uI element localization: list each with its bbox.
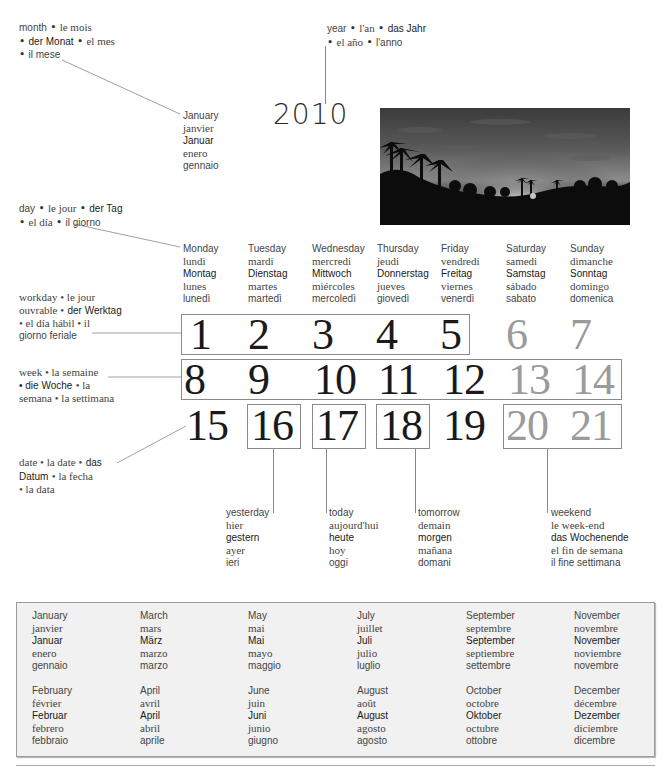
weekend-pointer-line — [547, 449, 548, 513]
date-13: 13 — [508, 358, 550, 402]
tomorrow-pointer-line — [415, 449, 416, 513]
month-november: November novembre November noviembre nov… — [574, 610, 621, 672]
month-october: October octobre Oktober octubre ottobre — [466, 685, 502, 747]
date-21: 21 — [570, 404, 612, 448]
date-20: 20 — [506, 404, 548, 448]
yesterday-label: yesterday hier gestern ayer ieri — [226, 507, 269, 569]
month-march: March mars März marzo marzo — [140, 610, 168, 672]
weekday-wednesday: Wednesday mercredi Mittwoch miércoles me… — [312, 243, 365, 305]
date-19: 19 — [443, 404, 485, 448]
month-january: January janvier Januar enero gennaio — [32, 610, 68, 672]
yesterday-pointer-line — [273, 449, 274, 513]
date-16: 16 — [251, 404, 293, 448]
page-bottom-rule — [16, 765, 655, 766]
tomorrow-label: tomorrow demain morgen mañana domani — [418, 507, 460, 569]
weekday-monday: Monday lundi Montag lunes lunedì — [183, 243, 219, 305]
date-5: 5 — [440, 313, 461, 357]
month-may: May mai Mai mayo maggio — [248, 610, 281, 672]
weekday-thursday: Thursday jeudi Donnerstag jueves giovedì — [377, 243, 429, 305]
sunset-palm-photo — [380, 108, 630, 225]
months-reference-box: January janvier Januar enero gennaio Feb… — [16, 602, 655, 757]
current-month: January janvier Januar enero gennaio — [183, 110, 219, 172]
date-14: 14 — [572, 358, 614, 402]
date-3: 3 — [312, 313, 333, 357]
month-february: February février Februar febrero febbrai… — [32, 685, 72, 747]
date-12: 12 — [443, 358, 485, 402]
date-11: 11 — [378, 358, 418, 402]
weekday-sunday: Sunday dimanche Sonntag domingo domenica — [570, 243, 613, 305]
date-7: 7 — [570, 313, 591, 357]
day-label: day • le jour • der Tag • el día • il gi… — [19, 202, 122, 229]
year-pointer-line — [325, 46, 326, 104]
date-8: 8 — [184, 358, 205, 402]
weekday-tuesday: Tuesday mardi Dienstag martes martedì — [248, 243, 287, 305]
month-december: December décembre Dezember diciembre dic… — [574, 685, 620, 747]
workday-label: workday • le jour ouvrable • der Werktag… — [19, 291, 122, 342]
date-15: 15 — [186, 404, 228, 448]
date-label: date • la date • das Datum • la fecha • … — [19, 456, 102, 496]
date-4: 4 — [376, 313, 397, 357]
year-title: 2010 — [273, 98, 348, 131]
today-label: today aujourd'hui heute hoy oggi — [329, 507, 379, 569]
date-10: 10 — [314, 358, 356, 402]
month-june: June juin Juni junio giugno — [248, 685, 278, 747]
date-6: 6 — [506, 313, 527, 357]
week-label: week • la semaine • die Woche • la seman… — [19, 366, 114, 405]
date-18: 18 — [380, 404, 422, 448]
date-1: 1 — [190, 313, 211, 357]
palm-silhouette-image — [380, 108, 630, 225]
month-august: August août August agosto agosto — [357, 685, 388, 747]
month-april: April avril April abril aprile — [140, 685, 164, 747]
today-pointer-line — [326, 449, 327, 513]
date-2: 2 — [248, 313, 269, 357]
date-9: 9 — [248, 358, 269, 402]
weekday-friday: Friday vendredi Freitag viernes venerdì — [441, 243, 479, 305]
weekend-label: weekend le week-end das Wochenende el fi… — [551, 507, 629, 569]
month-september: September septembre September septiembre… — [466, 610, 515, 672]
month-july: July juillet Juli julio luglio — [357, 610, 383, 672]
weekday-saturday: Saturday samedi Samstag sábado sabato — [506, 243, 546, 305]
year-label: year • l'an • das Jahr • el año • l'anno — [327, 22, 426, 49]
date-17: 17 — [316, 404, 358, 448]
